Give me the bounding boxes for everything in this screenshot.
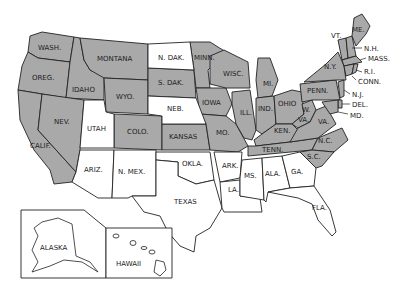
label-ken: KEN.	[274, 127, 290, 135]
label-hawaii: HAWAII	[116, 260, 141, 268]
label-md: MD.	[350, 112, 364, 120]
label-montana: MONTANA	[97, 55, 133, 63]
label-alaska: ALASKA	[40, 244, 68, 252]
label-ind: IND.	[258, 105, 273, 113]
label-ark: ARK.	[222, 162, 238, 170]
label-ndak: N. DAK.	[158, 54, 185, 62]
label-mo: MO.	[216, 129, 230, 137]
label-conn: CONN.	[358, 78, 381, 86]
label-kansas: KANSAS	[169, 133, 198, 141]
state-del	[338, 100, 342, 108]
label-okla: OKLA.	[182, 160, 203, 168]
label-tenn: TENN.	[261, 146, 283, 154]
label-wyo: WYO.	[116, 93, 134, 101]
label-del: DEL.	[352, 101, 368, 109]
label-colo: COLO.	[127, 128, 149, 136]
label-penn: PENN.	[307, 87, 328, 95]
label-calif: CALIF.	[30, 142, 51, 150]
label-wisc: WISC.	[223, 70, 244, 78]
label-ny: N.Y.	[324, 63, 337, 71]
label-ariz: ARIZ.	[84, 166, 103, 174]
label-ohio: OHIO	[278, 100, 297, 108]
label-vt: VT.	[331, 32, 341, 40]
label-oreg: OREG.	[32, 74, 54, 82]
label-la: LA.	[228, 186, 239, 194]
label-ri: R.I.	[364, 68, 375, 76]
label-va: VA.	[318, 118, 329, 126]
label-ga: GA.	[291, 168, 303, 176]
state-wisc	[210, 50, 250, 88]
label-neb: NEB.	[167, 105, 184, 113]
label-nev: NEV.	[54, 118, 70, 126]
us-map: WASH. OREG. CALIF. IDAHO NEV. MONTANA WY…	[0, 0, 408, 296]
label-nj: N.J.	[352, 91, 364, 99]
label-texas: TEXAS	[173, 198, 197, 206]
label-me: ME.	[352, 26, 365, 34]
label-nmex: N. MEX.	[118, 168, 145, 176]
state-ariz	[72, 150, 114, 198]
label-iowa: IOWA	[202, 99, 221, 107]
label-fla: FLA.	[312, 204, 327, 212]
state-mi	[256, 58, 278, 98]
label-nh: N.H.	[364, 45, 379, 53]
label-wva-va: VA.	[298, 116, 309, 124]
label-minn: MINN.	[194, 54, 215, 62]
label-ill: ILL.	[240, 109, 252, 117]
label-ms: MS.	[244, 172, 257, 180]
label-sc: S.C.	[307, 153, 321, 161]
label-utah: UTAH	[87, 125, 106, 133]
label-sdak: S. DAK.	[158, 79, 184, 87]
label-mass: MASS.	[368, 55, 390, 63]
label-nc: N.C.	[318, 137, 333, 145]
label-mi: MI.	[263, 80, 273, 88]
label-idaho: IDAHO	[72, 86, 95, 94]
label-wash: WASH.	[38, 44, 61, 52]
label-ala: ALA.	[265, 170, 281, 178]
label-wva-w: W.	[302, 106, 310, 114]
